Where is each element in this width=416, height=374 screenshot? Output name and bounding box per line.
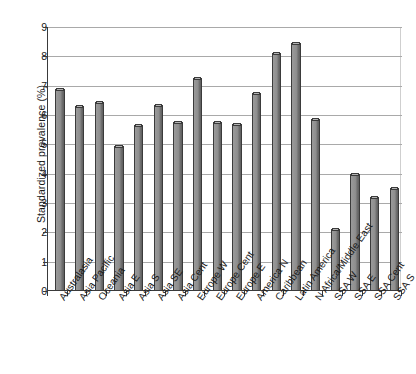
bar-top-face — [292, 42, 300, 45]
bar-top-face — [155, 104, 163, 107]
x-tick-mark — [47, 291, 48, 296]
bar-top-face — [371, 196, 379, 199]
bar-top-face — [253, 92, 261, 95]
bar-slot — [213, 27, 223, 291]
bar-slot — [173, 27, 183, 291]
bar-slot — [370, 27, 380, 291]
bar-slot — [134, 27, 144, 291]
bar — [154, 105, 164, 291]
bar-top-face — [96, 101, 104, 104]
bar-top-face — [214, 121, 222, 124]
bar-slot — [95, 27, 105, 291]
bar-top-face — [194, 77, 202, 80]
bar-slot — [55, 27, 65, 291]
bar-slot — [75, 27, 85, 291]
bar-top-face — [391, 187, 399, 190]
bar-top-face — [56, 88, 64, 91]
bar-slot — [311, 27, 321, 291]
bar-top-face — [135, 124, 143, 127]
bar-top-face — [233, 123, 241, 126]
bar-top-face — [312, 118, 320, 121]
bar-top-face — [351, 173, 359, 176]
bar-slot — [114, 27, 124, 291]
x-axis-labels: AustralasiaAsia PacificOceaniaAsia EAsia… — [47, 296, 407, 374]
bar — [291, 43, 301, 291]
bar-chart: Standardized prevalence (%) 0123456789 A… — [0, 0, 416, 374]
bar-slot — [193, 27, 203, 291]
bar-slot — [154, 27, 164, 291]
bar — [134, 125, 144, 291]
bar-top-face — [174, 121, 182, 124]
bar — [55, 89, 65, 291]
bar-top-face — [115, 145, 123, 148]
bar — [272, 53, 282, 291]
bar-top-face — [332, 228, 340, 231]
y-axis-ticks: 0123456789 — [14, 27, 47, 291]
bar-top-face — [76, 105, 84, 108]
bar-slot — [272, 27, 282, 291]
bar-slot — [390, 27, 400, 291]
bar — [193, 78, 203, 291]
bar-top-face — [273, 52, 281, 55]
bar-slot — [291, 27, 301, 291]
bar-slot — [232, 27, 242, 291]
bar-slot — [252, 27, 262, 291]
